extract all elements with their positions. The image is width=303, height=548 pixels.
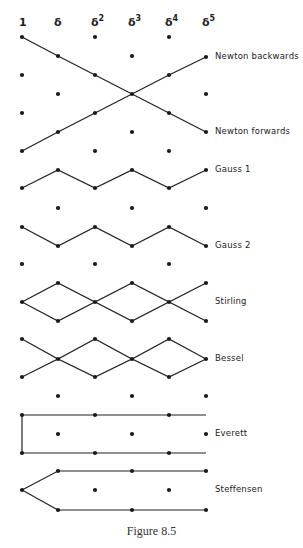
column-header-delta-3: δ3 <box>128 14 141 29</box>
entry-dot <box>93 225 97 229</box>
entry-dot <box>56 92 60 96</box>
entry-dot <box>130 244 134 248</box>
entry-dot <box>130 394 134 398</box>
entry-dot <box>56 206 60 210</box>
column-header-delta: δ <box>54 14 62 29</box>
scheme-path <box>22 170 206 188</box>
entry-dot <box>20 111 24 115</box>
entry-dot <box>56 394 60 398</box>
entry-dot <box>93 375 97 379</box>
scheme-path <box>22 283 206 302</box>
entry-dot <box>204 244 208 248</box>
entry-dot <box>93 300 97 304</box>
entry-dot <box>130 508 134 512</box>
label-steffensen: Steffensen <box>215 484 263 494</box>
label-newton-backwards: Newton backwards <box>215 51 299 61</box>
column-header-delta-5: δ5 <box>202 14 215 29</box>
entry-dot <box>20 451 24 455</box>
entry-dot <box>20 488 24 492</box>
entry-dot <box>167 111 171 115</box>
entry-dot <box>20 413 24 417</box>
entry-dot <box>130 168 134 172</box>
entry-dot <box>204 394 208 398</box>
entry-dot <box>56 130 60 134</box>
scheme-path <box>22 302 206 321</box>
entry-dot <box>20 337 24 341</box>
scheme-path <box>22 37 206 132</box>
entry-dot <box>93 111 97 115</box>
scheme-path <box>22 359 206 377</box>
entry-dot <box>130 130 134 134</box>
entry-dot <box>20 300 24 304</box>
entry-dot <box>20 375 24 379</box>
entry-dot <box>204 92 208 96</box>
label-gauss-1: Gauss 1 <box>215 164 251 174</box>
entry-dot <box>56 357 60 361</box>
entry-dot <box>56 319 60 323</box>
entry-dot <box>93 186 97 190</box>
entry-dot <box>130 206 134 210</box>
entry-dot <box>93 35 97 39</box>
difference-scheme-diagram <box>0 0 303 548</box>
entry-dot <box>204 206 208 210</box>
entry-dot <box>167 262 171 266</box>
scheme-path <box>22 57 206 151</box>
entry-dot <box>93 73 97 77</box>
label-everett: Everett <box>215 428 247 438</box>
entry-dot <box>167 73 171 77</box>
entry-dot <box>167 375 171 379</box>
table-entries <box>20 35 208 512</box>
entry-dot <box>56 469 60 473</box>
entry-dot <box>167 451 171 455</box>
entry-dot <box>130 92 134 96</box>
entry-dot <box>204 432 208 436</box>
entry-dot <box>20 73 24 77</box>
entry-dot <box>93 149 97 153</box>
entry-dot <box>204 469 208 473</box>
entry-dot <box>20 225 24 229</box>
entry-dot <box>167 35 171 39</box>
entry-dot <box>167 186 171 190</box>
entry-dot <box>93 337 97 341</box>
entry-dot <box>130 281 134 285</box>
entry-dot <box>204 130 208 134</box>
entry-dot <box>167 149 171 153</box>
entry-dot <box>167 488 171 492</box>
entry-dot <box>204 319 208 323</box>
entry-dot <box>56 168 60 172</box>
entry-dot <box>167 300 171 304</box>
entry-dot <box>204 357 208 361</box>
scheme-path <box>22 471 206 490</box>
label-newton-forwards: Newton forwards <box>215 126 290 136</box>
column-header-delta-2: δ2 <box>91 14 104 29</box>
entry-dot <box>93 488 97 492</box>
entry-dot <box>130 469 134 473</box>
entry-dot <box>93 451 97 455</box>
entry-dot <box>56 54 60 58</box>
entry-dot <box>167 225 171 229</box>
entry-dot <box>20 35 24 39</box>
entry-dot <box>20 149 24 153</box>
label-stirling: Stirling <box>215 296 247 306</box>
entry-dot <box>56 281 60 285</box>
entry-dot <box>56 244 60 248</box>
entry-dot <box>167 413 171 417</box>
label-bessel: Bessel <box>215 353 244 363</box>
column-header-1: 1 <box>19 14 27 29</box>
entry-dot <box>130 357 134 361</box>
scheme-paths <box>22 37 206 510</box>
entry-dot <box>130 54 134 58</box>
entry-dot <box>167 337 171 341</box>
figure-caption: Figure 8.5 <box>0 524 303 539</box>
entry-dot <box>93 262 97 266</box>
column-header-delta-4: δ4 <box>165 14 178 29</box>
entry-dot <box>130 319 134 323</box>
entry-dot <box>20 186 24 190</box>
label-gauss-2: Gauss 2 <box>215 240 251 250</box>
entry-dot <box>204 55 208 59</box>
scheme-path <box>22 339 206 359</box>
entry-dot <box>204 281 208 285</box>
scheme-path <box>22 227 206 246</box>
scheme-path <box>22 490 206 510</box>
entry-dot <box>56 432 60 436</box>
